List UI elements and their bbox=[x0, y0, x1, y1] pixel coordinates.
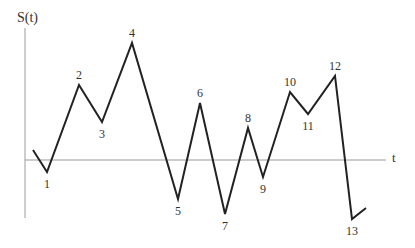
diagram-plot: S(t) t 12345678910111213 bbox=[0, 0, 415, 248]
vertex-label-2: 2 bbox=[76, 68, 82, 82]
vertex-label-8: 8 bbox=[245, 111, 251, 125]
vertex-label-5: 5 bbox=[175, 204, 181, 218]
vertex-label-11: 11 bbox=[302, 119, 314, 133]
y-axis-label: S(t) bbox=[17, 10, 38, 26]
vertex-label-10: 10 bbox=[284, 75, 296, 89]
vertex-label-9: 9 bbox=[260, 182, 266, 196]
x-axis-label: t bbox=[392, 150, 396, 165]
vertex-label-12: 12 bbox=[329, 59, 341, 73]
vertex-labels: 12345678910111213 bbox=[44, 26, 358, 238]
vertex-label-1: 1 bbox=[44, 177, 50, 191]
vertex-label-3: 3 bbox=[99, 127, 105, 141]
vertex-label-13: 13 bbox=[346, 224, 358, 238]
zigzag-path bbox=[33, 43, 366, 219]
zigzag-diagram: S(t) t 12345678910111213 bbox=[0, 0, 415, 248]
vertex-label-7: 7 bbox=[222, 219, 228, 233]
vertex-label-4: 4 bbox=[129, 26, 135, 40]
vertex-label-6: 6 bbox=[197, 86, 203, 100]
